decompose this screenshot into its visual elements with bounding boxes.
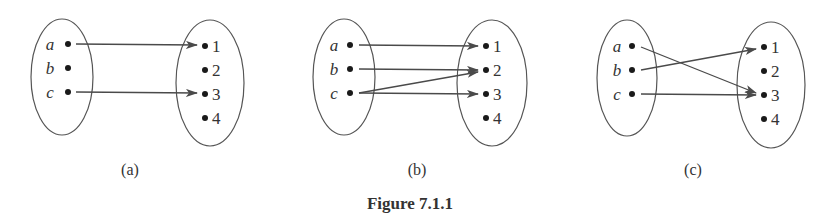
domain-point	[65, 41, 71, 47]
mapping-arrow-b-to-2	[359, 69, 478, 70]
mapping-arrow-a-to-1	[76, 44, 197, 45]
codomain-point	[761, 68, 767, 74]
domain-element-label: c	[46, 83, 54, 102]
codomain-element-label: 4	[771, 110, 780, 129]
codomain-element-label: 3	[493, 85, 502, 104]
codomain-point	[761, 92, 767, 98]
domain-point	[629, 43, 635, 49]
domain-element-label: a	[330, 36, 339, 55]
panel-label: (b)	[408, 161, 427, 179]
codomain-element-label: 2	[771, 62, 780, 81]
mapping-arrow-a-to-3	[641, 47, 756, 93]
panel-label: (a)	[121, 161, 139, 179]
codomain-element-label: 1	[771, 38, 780, 57]
codomain-element-label: 3	[771, 86, 780, 105]
domain-point	[65, 89, 71, 95]
codomain-point	[483, 91, 489, 97]
panel-a: a b c 1 2 3 4 (a)	[31, 19, 244, 179]
codomain-point	[202, 91, 208, 97]
figure-caption: Figure 7.1.1	[367, 194, 453, 213]
codomain-element-label: 2	[212, 61, 221, 80]
domain-element-label: b	[330, 60, 339, 79]
codomain-set-ellipse	[176, 20, 244, 146]
codomain-point	[202, 67, 208, 73]
panel-b: a b c 1 2 3 4 (b)	[313, 19, 527, 179]
panel-c: a b c 1 2 3 4 (c)	[597, 20, 805, 179]
domain-element-label: c	[330, 84, 338, 103]
codomain-point	[483, 67, 489, 73]
codomain-point	[761, 44, 767, 50]
codomain-element-label: 2	[493, 61, 502, 80]
domain-element-label: a	[46, 35, 55, 54]
domain-point	[347, 66, 353, 72]
codomain-element-label: 4	[493, 109, 502, 128]
domain-set-ellipse	[313, 19, 375, 135]
codomain-element-label: 4	[212, 109, 221, 128]
domain-point	[629, 67, 635, 73]
mapping-arrow-c-to-2	[359, 72, 478, 93]
mapping-arrow-c-to-3	[359, 93, 478, 94]
codomain-point	[761, 116, 767, 122]
codomain-point	[483, 115, 489, 121]
domain-element-label: b	[613, 61, 622, 80]
domain-element-label: c	[613, 85, 621, 104]
panel-label: (c)	[684, 161, 702, 179]
figure-7-1-1: a b c 1 2 3 4 (a) a b c 1 2 3 4	[0, 0, 835, 218]
domain-point	[347, 42, 353, 48]
codomain-point	[202, 115, 208, 121]
mapping-arrow-a-to-1	[359, 45, 478, 46]
domain-set-ellipse	[597, 20, 657, 136]
domain-set-ellipse	[31, 19, 93, 135]
domain-point	[629, 91, 635, 97]
codomain-set-ellipse	[457, 20, 527, 146]
codomain-element-label: 1	[212, 37, 221, 56]
codomain-element-label: 3	[212, 85, 221, 104]
mapping-arrow-c-to-3	[641, 94, 756, 95]
domain-element-label: b	[46, 59, 55, 78]
domain-point	[65, 65, 71, 71]
codomain-point	[483, 43, 489, 49]
codomain-point	[202, 43, 208, 49]
domain-point	[347, 90, 353, 96]
mapping-arrow-c-to-3	[76, 92, 197, 93]
codomain-element-label: 1	[493, 37, 502, 56]
domain-element-label: a	[613, 37, 622, 56]
